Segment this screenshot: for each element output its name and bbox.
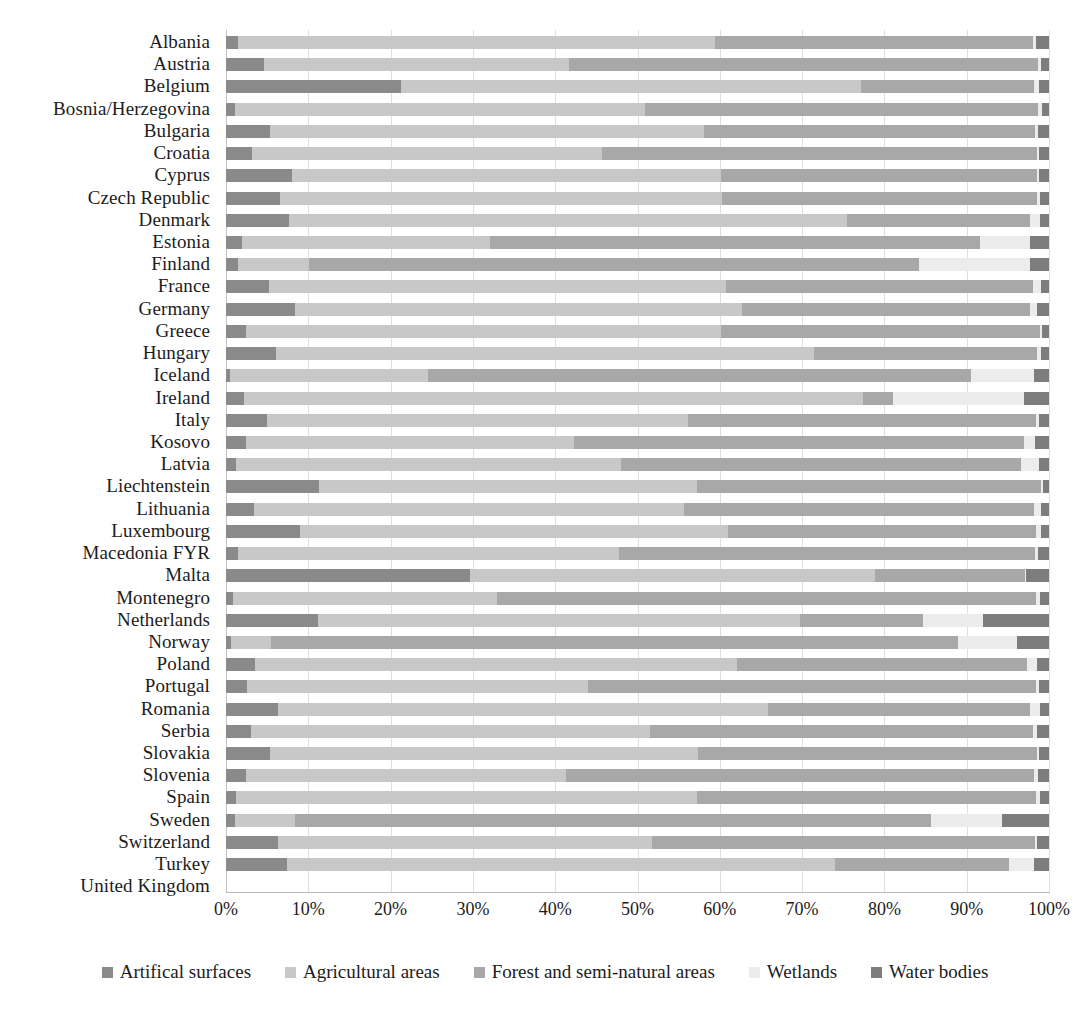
category-label: Slovakia bbox=[143, 743, 210, 763]
bar-segment bbox=[1041, 280, 1049, 293]
bar-row bbox=[226, 525, 1049, 538]
category-label: Finland bbox=[151, 254, 210, 274]
bar-segment bbox=[1040, 192, 1049, 205]
bar-segment bbox=[226, 480, 319, 493]
bar-row bbox=[226, 636, 1049, 649]
bar-segment bbox=[226, 569, 470, 582]
page-bottom-margin bbox=[0, 1010, 1090, 1033]
bar-segment bbox=[278, 703, 768, 716]
category-label: Spain bbox=[166, 787, 210, 807]
bar-segment bbox=[652, 836, 1035, 849]
category-label: Macedonia FYR bbox=[83, 543, 210, 563]
x-tick-label: 0% bbox=[191, 898, 261, 920]
bar-segment bbox=[1037, 658, 1049, 671]
legend-item[interactable]: Agricultural areas bbox=[285, 961, 440, 983]
bar-segment bbox=[1039, 458, 1049, 471]
bar-segment bbox=[236, 458, 621, 471]
bar-segment bbox=[238, 258, 310, 271]
bar-segment bbox=[697, 480, 1041, 493]
bar-segment bbox=[231, 636, 271, 649]
plot-area bbox=[226, 30, 1049, 892]
bar-segment bbox=[267, 414, 688, 427]
bar-segment bbox=[1037, 836, 1049, 849]
bar-row bbox=[226, 725, 1049, 738]
bar-segment bbox=[1036, 36, 1049, 49]
bar-segment bbox=[1030, 236, 1049, 249]
bar-segment bbox=[238, 547, 618, 560]
bar-row bbox=[226, 569, 1049, 582]
legend-item[interactable]: Wetlands bbox=[749, 961, 837, 983]
bar-row bbox=[226, 836, 1049, 849]
bar-segment bbox=[246, 436, 574, 449]
bar-segment bbox=[226, 392, 244, 405]
bar-segment bbox=[295, 814, 931, 827]
bar-row bbox=[226, 369, 1049, 382]
bar-segment bbox=[226, 58, 264, 71]
bar-row bbox=[226, 303, 1049, 316]
x-tick-label: 20% bbox=[356, 898, 426, 920]
bar-row bbox=[226, 280, 1049, 293]
bar-segment bbox=[1039, 80, 1049, 93]
land-cover-stacked-bar-chart: AlbaniaAustriaBelgiumBosnia/HerzegovinaB… bbox=[0, 0, 1090, 1033]
bar-segment bbox=[287, 858, 835, 871]
category-label: Bulgaria bbox=[144, 121, 210, 141]
bar-segment bbox=[704, 125, 1035, 138]
bar-segment bbox=[1038, 769, 1049, 782]
category-label: Serbia bbox=[161, 721, 210, 741]
bar-segment bbox=[1041, 525, 1049, 538]
bar-segment bbox=[814, 347, 1037, 360]
bar-segment bbox=[1041, 503, 1049, 516]
bar-segment bbox=[295, 303, 742, 316]
bar-segment bbox=[983, 614, 1049, 627]
bar-row bbox=[226, 214, 1049, 227]
legend-item[interactable]: Forest and semi-natural areas bbox=[474, 961, 715, 983]
bar-segment bbox=[863, 392, 893, 405]
bar-segment bbox=[278, 836, 652, 849]
bar-segment bbox=[226, 192, 280, 205]
category-label: Czech Republic bbox=[88, 188, 210, 208]
bar-segment bbox=[226, 658, 255, 671]
bar-segment bbox=[958, 636, 1016, 649]
category-label: Latvia bbox=[161, 454, 210, 474]
bar-segment bbox=[1030, 303, 1037, 316]
bar-segment bbox=[242, 236, 491, 249]
bar-segment bbox=[1039, 414, 1049, 427]
category-label: Liechtenstein bbox=[106, 476, 210, 496]
bar-segment bbox=[1039, 147, 1049, 160]
bar-segment bbox=[721, 325, 1040, 338]
legend-swatch-icon bbox=[474, 967, 485, 978]
bar-segment bbox=[1038, 547, 1049, 560]
category-label: Italy bbox=[175, 410, 210, 430]
bar-segment bbox=[318, 614, 799, 627]
bar-segment bbox=[980, 236, 1030, 249]
legend-item[interactable]: Water bodies bbox=[871, 961, 988, 983]
bar-segment bbox=[226, 592, 233, 605]
bar-segment bbox=[226, 547, 238, 560]
bar-segment bbox=[246, 325, 721, 338]
bar-segment bbox=[602, 147, 1037, 160]
bar-segment bbox=[280, 192, 722, 205]
bar-segment bbox=[226, 769, 246, 782]
bar-segment bbox=[1041, 58, 1049, 71]
bar-segment bbox=[233, 592, 496, 605]
bar-segment bbox=[497, 592, 1036, 605]
category-label: Albania bbox=[149, 32, 210, 52]
legend-item[interactable]: Artifical surfaces bbox=[102, 961, 251, 983]
bar-segment bbox=[1034, 858, 1049, 871]
bar-segment bbox=[226, 280, 269, 293]
bar-segment bbox=[1035, 436, 1049, 449]
bar-row bbox=[226, 58, 1049, 71]
category-label: United Kingdom bbox=[80, 876, 210, 896]
legend-label: Wetlands bbox=[767, 961, 837, 983]
category-label: Norway bbox=[148, 632, 210, 652]
bar-segment bbox=[428, 369, 971, 382]
category-label: Bosnia/Herzegovina bbox=[53, 99, 210, 119]
bar-row bbox=[226, 680, 1049, 693]
bar-segment bbox=[226, 258, 238, 271]
bar-segment bbox=[226, 458, 236, 471]
category-label: Belgium bbox=[144, 76, 210, 96]
bar-segment bbox=[923, 614, 983, 627]
bar-segment bbox=[835, 858, 1009, 871]
x-tick-label: 70% bbox=[767, 898, 837, 920]
bar-segment bbox=[269, 280, 726, 293]
